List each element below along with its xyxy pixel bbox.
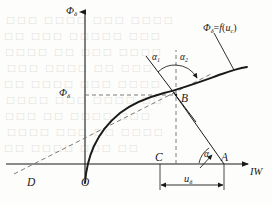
point-label-b: B xyxy=(181,93,188,105)
point-label-a: A xyxy=(221,152,228,164)
y-axis-label-sub: δ xyxy=(74,10,77,17)
point-marker-b xyxy=(175,94,177,96)
point-label-c: C xyxy=(155,152,163,164)
angle-label-alpha: α xyxy=(204,150,209,160)
curve-label-arg-sub: c xyxy=(230,27,233,34)
phi-delta-value-label: Φδ xyxy=(59,88,70,99)
angle-label-alpha-2: α2 xyxy=(180,53,188,63)
point-label-a-text: A xyxy=(221,151,228,163)
curve-label-phi-base: Φ xyxy=(203,22,211,33)
phi-delta-base: Φ xyxy=(59,87,67,98)
x-axis-label: IW xyxy=(250,167,262,178)
angle-arc-alpha-1 xyxy=(158,65,176,72)
tangent-line-through-b xyxy=(146,56,196,122)
x-axis-label-base: IW xyxy=(250,166,262,177)
alpha-2-sub: 2 xyxy=(185,57,188,63)
alpha-base: α xyxy=(204,149,209,159)
phi-delta-sub: δ xyxy=(67,92,70,99)
point-label-d-text: D xyxy=(27,176,35,188)
y-axis-label-base: Φ xyxy=(66,5,74,16)
curve-label-leader-line xyxy=(214,33,234,70)
curve-function-label: Φδ=f(uc) xyxy=(203,23,237,33)
u-delta-sub: δ xyxy=(189,178,192,185)
figure-container: □□□ □□□□ □□□ □□□□□□ □□□ □□□□□ □□□□□□□ □□… xyxy=(0,0,272,205)
point-label-o: O xyxy=(81,177,89,189)
point-label-o-text: O xyxy=(81,176,89,188)
angle-arc-alpha-2 xyxy=(176,65,197,78)
point-label-c-text: C xyxy=(155,151,163,163)
saturation-curve xyxy=(85,67,247,183)
alpha-1-sub: 1 xyxy=(157,57,160,63)
angle-label-alpha-1: α1 xyxy=(152,53,160,63)
y-axis-label: Φδ xyxy=(66,6,77,17)
point-label-b-text: B xyxy=(181,92,188,104)
curve-label-phi-sub: δ xyxy=(211,27,214,34)
point-label-d: D xyxy=(27,177,35,189)
curve-label-close: ) xyxy=(233,22,236,33)
u-delta-dimension-label: uδ xyxy=(184,174,192,185)
